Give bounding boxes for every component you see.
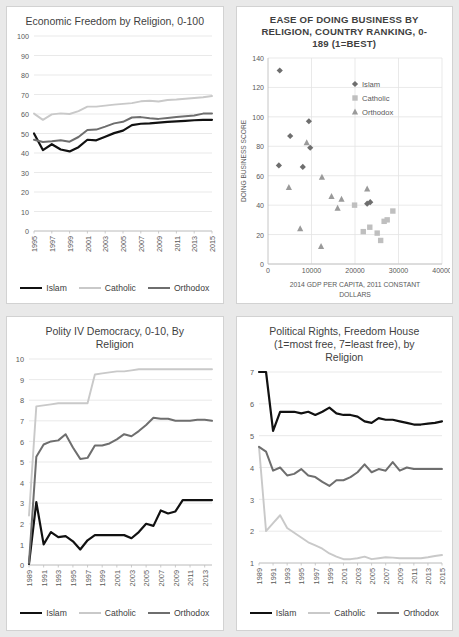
x-axis-tick-label: 1997 bbox=[84, 570, 93, 586]
legend-item-catholic: Catholic bbox=[79, 283, 136, 293]
scatter-point-islam bbox=[275, 162, 281, 168]
legend-label-islam: Islam bbox=[362, 80, 380, 89]
y-axis-tick-label: 5 bbox=[249, 432, 253, 441]
svg-economic-freedom: 0102030405060708090100199519971999200120… bbox=[7, 30, 220, 265]
x-axis-tick-label: 2001 bbox=[113, 570, 122, 586]
chart-title-polity-iv: Polity IV Democracy, 0-10, By Religion bbox=[7, 317, 223, 353]
series-line-islam bbox=[259, 372, 442, 431]
x-axis-tick-label: 1991 bbox=[40, 570, 49, 586]
x-axis-tick-label: 2007 bbox=[381, 568, 390, 584]
scatter-point-catholic bbox=[377, 238, 382, 243]
y-axis-tick-label: 80 bbox=[256, 143, 264, 150]
y-axis-tick-label: 10 bbox=[16, 355, 24, 364]
chart-title-economic-freedom: Economic Freedom by Religion, 0-100 bbox=[7, 7, 223, 30]
y-axis-tick-label: 40 bbox=[21, 149, 29, 158]
chart-title-political-rights: Political Rights, Freedom House (1=most … bbox=[237, 317, 453, 366]
y-axis-tick-label: 4 bbox=[20, 479, 24, 488]
x-axis-tick-label: 2005 bbox=[367, 568, 376, 584]
legend-label-orthodox: Orthodox bbox=[362, 108, 393, 117]
x-axis-tick-label: 2013 bbox=[201, 570, 210, 586]
y-axis-tick-label: 1 bbox=[249, 559, 253, 568]
chart-card-economic-freedom: Economic Freedom by Religion, 0-100 0102… bbox=[6, 6, 224, 304]
legend-marker-islam bbox=[351, 81, 357, 87]
x-axis-tick-label: 2001 bbox=[339, 568, 348, 584]
series-line-islam bbox=[29, 500, 212, 564]
legend-swatch-catholic bbox=[79, 612, 101, 614]
series-line-catholic bbox=[259, 447, 442, 559]
y-axis-tick-label: 3 bbox=[20, 499, 24, 508]
legend-label-catholic: Catholic bbox=[334, 608, 365, 618]
y-axis-tick-label: 40 bbox=[256, 202, 264, 209]
legend-swatch-islam bbox=[20, 612, 42, 614]
scatter-point-catholic bbox=[384, 217, 389, 222]
scatter-point-orthodox bbox=[328, 193, 334, 199]
scatter-point-islam bbox=[299, 164, 305, 170]
legend-swatch-orthodox bbox=[148, 612, 170, 614]
y-axis-tick-label: 4 bbox=[249, 464, 253, 473]
panel-polity-iv: Polity IV Democracy, 0-10, By Religion 0… bbox=[0, 310, 230, 637]
scatter-point-islam bbox=[276, 67, 282, 73]
chart-card-ease-of-doing-business: EASE OF DOING BUSINESS BY RELIGION, COUN… bbox=[236, 6, 454, 304]
legend-marker-catholic bbox=[352, 95, 357, 100]
legend-label-orthodox: Orthodox bbox=[403, 608, 438, 618]
scatter-point-orthodox bbox=[285, 184, 291, 190]
x-axis-tick-label: 1995 bbox=[69, 570, 78, 586]
y-axis-tick-label: 120 bbox=[252, 84, 264, 91]
scatter-point-catholic bbox=[390, 208, 395, 213]
legend-swatch-catholic bbox=[79, 287, 101, 289]
x-axis-tick-label: 40000 bbox=[432, 267, 450, 274]
x-axis-tick-label: 2005 bbox=[119, 236, 128, 252]
y-axis-tick-label: 50 bbox=[21, 130, 29, 139]
y-axis-tick-label: 1 bbox=[20, 541, 24, 550]
y-axis-tick-label: 5 bbox=[20, 458, 24, 467]
legend-item-orthodox: Orthodox bbox=[148, 283, 209, 293]
x-axis-tick-label: 20000 bbox=[345, 267, 365, 274]
y-axis-tick-label: 7 bbox=[249, 368, 253, 377]
scatter-point-orthodox bbox=[303, 139, 309, 145]
scatter-point-orthodox bbox=[364, 186, 370, 192]
legend-item-orthodox: Orthodox bbox=[377, 608, 438, 618]
x-axis-tick-label: 2011 bbox=[173, 236, 182, 251]
x-axis-tick-label: 2015 bbox=[438, 568, 447, 584]
x-axis-tick-label: 2011 bbox=[186, 570, 195, 586]
y-axis-tick-label: 80 bbox=[21, 71, 29, 80]
x-axis-tick-label: 1995 bbox=[297, 568, 306, 584]
svg-political-rights: 1234567198919911993199519971999200120032… bbox=[237, 366, 450, 601]
x-axis-tick-label: 2009 bbox=[395, 568, 404, 584]
scatter-point-islam bbox=[305, 118, 311, 124]
y-axis-tick-label: 90 bbox=[21, 52, 29, 61]
scatter-point-catholic bbox=[374, 230, 379, 235]
legend-item-islam: Islam bbox=[20, 283, 67, 293]
legend-swatch-islam bbox=[250, 612, 272, 614]
legend-item-catholic: Catholic bbox=[308, 608, 365, 618]
plot-political-rights: 1234567198919911993199519971999200120032… bbox=[237, 366, 453, 601]
scatter-point-orthodox bbox=[334, 205, 340, 211]
series-line-orthodox bbox=[34, 114, 212, 142]
svg-ease-of-doing-business: 020406080100120140010000200003000040000D… bbox=[237, 52, 450, 304]
x-axis-tick-label: 2005 bbox=[142, 570, 151, 586]
x-axis-tick-label: 1993 bbox=[54, 570, 63, 586]
series-line-orthodox bbox=[29, 418, 212, 563]
scatter-point-islam bbox=[287, 133, 293, 139]
legend-item-catholic: Catholic bbox=[79, 608, 136, 618]
x-axis-tick-label: 1997 bbox=[48, 236, 57, 252]
plot-ease-of-doing-business: 020406080100120140010000200003000040000D… bbox=[237, 52, 453, 304]
x-axis-tick-label: 1989 bbox=[255, 568, 264, 584]
plot-economic-freedom: 0102030405060708090100199519971999200120… bbox=[7, 30, 223, 265]
legend-label-islam: Islam bbox=[46, 608, 67, 618]
x-axis-tick-label: 10000 bbox=[301, 267, 321, 274]
series-line-catholic bbox=[29, 369, 212, 515]
x-axis-tick-label: 2007 bbox=[137, 236, 146, 252]
x-axis-tick-label: 2001 bbox=[84, 236, 93, 252]
y-axis-tick-label: 8 bbox=[20, 396, 24, 405]
legend-label-islam: Islam bbox=[276, 608, 297, 618]
y-axis-tick-label: 6 bbox=[20, 438, 24, 447]
legend-item-orthodox: Orthodox bbox=[148, 608, 209, 618]
x-axis-tick-label: 2013 bbox=[190, 236, 199, 252]
y-axis-tick-label: 0 bbox=[20, 561, 24, 570]
x-axis-tick-label: 30000 bbox=[388, 267, 408, 274]
x-axis-tick-label: 0 bbox=[266, 267, 270, 274]
scatter-point-islam bbox=[307, 145, 313, 151]
series-line-orthodox bbox=[259, 447, 442, 486]
x-axis-title-line: 2014 GDP PER CAPITA, 2011 CONSTANT bbox=[289, 281, 420, 288]
